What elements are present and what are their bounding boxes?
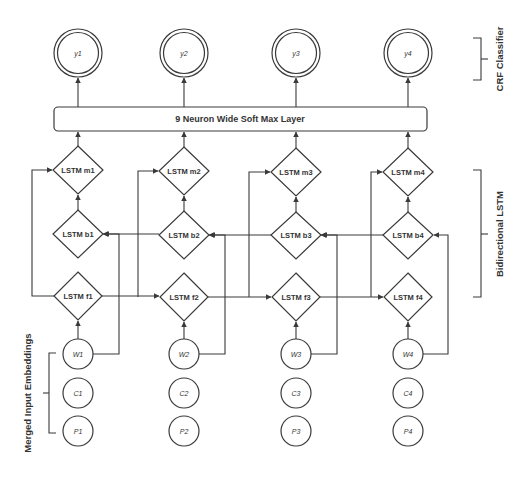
svg-text:W3: W3 [291, 351, 302, 358]
lstm-m3-node: LSTM m3 [271, 148, 321, 196]
svg-text:LSTM b1: LSTM b1 [62, 230, 93, 239]
crf-output-layer: y1 y2 y3 y4 [54, 29, 432, 77]
svg-text:LSTM f3: LSTM f3 [281, 293, 310, 302]
svg-text:P1: P1 [74, 428, 83, 435]
svg-text:LSTM m3: LSTM m3 [279, 168, 312, 177]
svg-text:LSTM f4: LSTM f4 [393, 293, 423, 302]
crf-classifier-bracket: CRF Classifier [473, 26, 505, 91]
svg-text:LSTM b3: LSTM b3 [280, 231, 311, 240]
input-embeddings: W1 W2 W3 W4 C1 C2 C3 C4 P1 P2 P3 P4 [63, 339, 423, 446]
svg-text:LSTM b4: LSTM b4 [392, 231, 424, 240]
lstm-merge-row: LSTM m1 LSTM m2 LSTM m3 LSTM m4 [53, 146, 433, 196]
output-label: y4 [403, 50, 412, 58]
svg-text:LSTM f2: LSTM f2 [169, 293, 198, 302]
svg-text:LSTM m4: LSTM m4 [391, 168, 425, 177]
svg-text:C3: C3 [292, 390, 301, 397]
output-node-y2: y2 [160, 29, 208, 77]
lstm-connections [32, 170, 448, 354]
output-node-y4: y4 [384, 29, 432, 77]
embeddings-bracket: Merged Input Embeddings [22, 333, 56, 452]
lstm-b2-node: LSTM b2 [159, 211, 209, 259]
svg-text:P4: P4 [404, 428, 413, 435]
char-embedding-row: C1 C2 C3 C4 [63, 378, 423, 408]
svg-text:W2: W2 [179, 351, 190, 358]
lstm-f3-node: LSTM f3 [272, 273, 320, 321]
svg-text:W4: W4 [403, 351, 414, 358]
svg-text:P3: P3 [292, 428, 301, 435]
softmax-layer: 9 Neuron Wide Soft Max Layer [54, 107, 427, 131]
output-node-y1: y1 [54, 29, 102, 77]
svg-text:W1: W1 [73, 351, 84, 358]
svg-text:C1: C1 [74, 390, 83, 397]
bidirectional-lstm-label: Bidirectional LSTM [494, 191, 505, 277]
lstm-m2-node: LSTM m2 [159, 147, 209, 195]
svg-text:LSTM m1: LSTM m1 [61, 166, 94, 175]
merge-to-softmax-arrows [78, 132, 408, 148]
merged-input-embeddings-label: Merged Input Embeddings [22, 333, 33, 452]
svg-text:C2: C2 [180, 390, 189, 397]
softmax-to-output-arrows [78, 78, 408, 107]
lstm-f2-node: LSTM f2 [160, 273, 208, 321]
svg-text:P2: P2 [180, 428, 189, 435]
bilstm-bracket: Bidirectional LSTM [473, 170, 505, 297]
lstm-m4-node: LSTM m4 [383, 148, 433, 196]
output-label: y3 [291, 50, 300, 58]
svg-text:LSTM m2: LSTM m2 [167, 167, 200, 176]
pos-embedding-row: P1 P2 P3 P4 [63, 416, 423, 446]
lstm-f1-node: LSTM f1 [54, 272, 102, 320]
lstm-b3-node: LSTM b3 [271, 212, 321, 259]
output-node-y3: y3 [272, 29, 320, 77]
svg-text:LSTM b2: LSTM b2 [168, 231, 199, 240]
output-label: y2 [179, 50, 188, 58]
output-label: y1 [73, 50, 82, 58]
lstm-b1-node: LSTM b1 [53, 210, 103, 258]
softmax-label: 9 Neuron Wide Soft Max Layer [175, 114, 305, 124]
bilstm-crf-diagram: y1 y2 y3 y4 9 Neuron Wide Soft Max Layer [0, 0, 530, 478]
crf-classifier-label: CRF Classifier [494, 26, 505, 91]
lstm-b4-node: LSTM b4 [383, 212, 433, 259]
lstm-m1-node: LSTM m1 [53, 146, 103, 194]
svg-text:C4: C4 [404, 390, 413, 397]
lstm-f4-node: LSTM f4 [384, 273, 432, 321]
svg-text:LSTM f1: LSTM f1 [63, 292, 92, 301]
